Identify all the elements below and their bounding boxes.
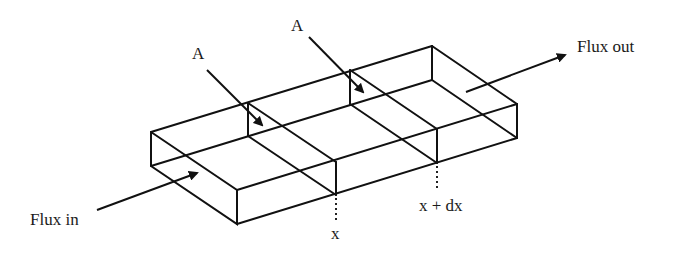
area-right-label: A bbox=[291, 16, 304, 35]
section-x-dx bbox=[350, 70, 437, 188]
flux-in-label: Flux in bbox=[30, 210, 79, 229]
position-x-label: x bbox=[331, 224, 340, 243]
flux-diagram: A A Flux in Flux out x x + dx bbox=[0, 0, 683, 255]
flux-out-label: Flux out bbox=[577, 37, 634, 56]
area-left-arrow-icon bbox=[207, 70, 262, 125]
flux-in-arrow-icon bbox=[97, 173, 197, 210]
area-left-label: A bbox=[192, 44, 205, 63]
flux-out-arrow-icon bbox=[466, 55, 565, 92]
section-x bbox=[248, 103, 336, 220]
position-x-dx-label: x + dx bbox=[419, 196, 463, 215]
area-right-arrow-icon bbox=[309, 37, 363, 92]
